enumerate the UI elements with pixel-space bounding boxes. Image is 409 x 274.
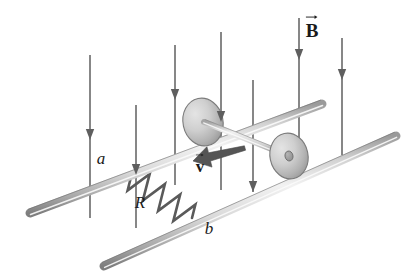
vector-arrow-overline-icon (196, 151, 205, 159)
velocity-symbol: v (196, 158, 205, 175)
rail-b (102, 132, 396, 267)
field-line-arrowhead-1 (86, 129, 94, 140)
magnetic-field-symbol: B (306, 21, 319, 40)
field-line-arrowhead-3 (171, 89, 179, 100)
rail-b-label: b (205, 220, 214, 237)
physics-diagram-figure: B v a b R (0, 0, 409, 274)
field-line-arrowhead-6 (295, 49, 303, 60)
rail-a-label: a (97, 150, 106, 167)
vector-arrow-overline-icon (306, 13, 319, 21)
field-line-arrowhead-7 (338, 69, 346, 80)
velocity-label: v (196, 158, 205, 175)
field-line-arrowhead-5 (249, 181, 257, 192)
resistor-label: R (135, 194, 145, 211)
magnetic-field-label: B (306, 21, 319, 40)
